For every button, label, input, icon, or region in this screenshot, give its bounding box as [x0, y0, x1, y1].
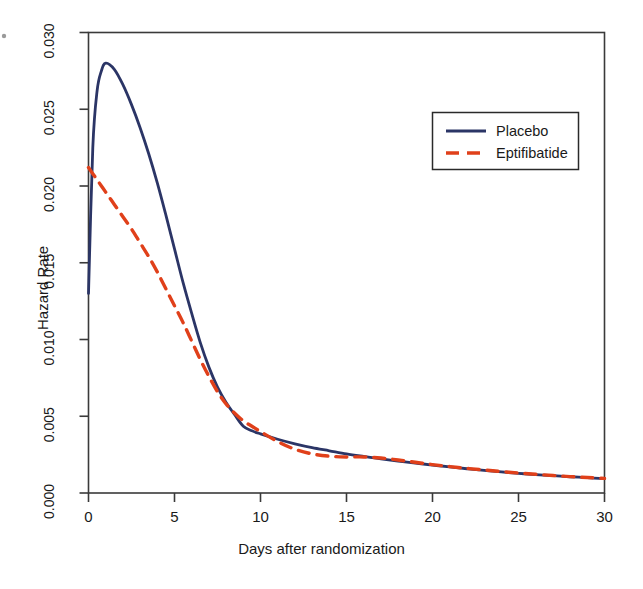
y-tick-label: 0.030 — [41, 23, 57, 58]
x-tick-label: 20 — [408, 508, 458, 525]
legend-label-placebo: Placebo — [496, 123, 548, 139]
x-tick-label: 5 — [150, 508, 200, 525]
x-axis-title: Days after randomization — [0, 540, 643, 557]
plot-frame — [89, 33, 605, 494]
y-tick-label: 0.020 — [41, 177, 57, 212]
legend-label-eptifibatide: Eptifibatide — [496, 145, 568, 161]
x-tick-label: 15 — [322, 508, 372, 525]
hazard-rate-chart-figure: Hazard Rate Days after randomization Pla… — [0, 0, 643, 589]
y-tick-label: 0.000 — [41, 484, 57, 519]
legend[interactable]: PlaceboEptifibatide — [433, 113, 579, 170]
scan-artifact-speck — [2, 34, 6, 38]
y-tick-label: 0.010 — [41, 330, 57, 365]
y-axis-title: Hazard Rate — [34, 130, 51, 330]
y-tick-label: 0.015 — [41, 254, 57, 289]
x-axis-ticks — [89, 493, 605, 502]
y-axis-ticks — [80, 33, 89, 494]
x-tick-label: 0 — [64, 508, 114, 525]
x-tick-label: 25 — [494, 508, 544, 525]
plot-area: PlaceboEptifibatide — [0, 0, 643, 589]
y-tick-label: 0.025 — [41, 100, 57, 135]
x-tick-label: 10 — [236, 508, 286, 525]
x-tick-label: 30 — [580, 508, 630, 525]
y-tick-label: 0.005 — [41, 407, 57, 442]
